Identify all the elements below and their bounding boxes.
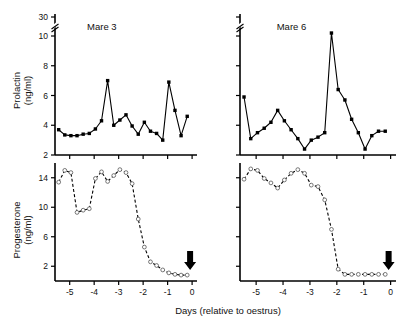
mare6-progesterone-data-point [242, 177, 246, 181]
mare3-progesterone-data-point [87, 207, 91, 211]
mare6-prolactin-data-point [249, 137, 252, 140]
mare6-progesterone-data-point [383, 272, 387, 276]
mare3-prolactin-data-point [155, 132, 158, 135]
mare6-progesterone-xtick-label-5: 0 [388, 287, 393, 297]
mare6-progesterone-data-point [303, 171, 307, 175]
mare3-prolactin-data-point [88, 132, 91, 135]
x-axis-title: Days (relative to oestrus) [175, 305, 281, 316]
mare3-prolactin-data-point [167, 80, 170, 83]
mare3-progesterone-data-point [136, 217, 140, 221]
mare3-progesterone-data-point [155, 264, 159, 268]
mare3-prolactin-data-point [63, 133, 66, 136]
mare6-progesterone-oestrus-arrow [383, 251, 395, 270]
mare3-progesterone-ytick-label-10: 10 [39, 202, 49, 212]
mare6-prolactin-data-point [363, 147, 366, 150]
mare3-progesterone-data-point [100, 170, 104, 174]
mare6-prolactin-data-point [316, 135, 319, 138]
mare3-prolactin-data-point [137, 132, 140, 135]
mare3-progesterone-data-point [179, 273, 183, 277]
mare6-prolactin-data-point [303, 147, 306, 150]
mare3-progesterone-data-point [149, 260, 153, 264]
mare3-progesterone-data-point [185, 273, 189, 277]
mare6-prolactin-data-point [263, 127, 266, 130]
mare3-prolactin-ytick-label-6: 6 [43, 91, 48, 101]
mare3-prolactin-data-point [75, 134, 78, 137]
mare3-progesterone-data-point [81, 208, 85, 212]
mare3-progesterone-xtick-label-0: -5 [66, 287, 74, 297]
progesterone-axis-units: (ng/ml) [22, 215, 33, 245]
mare3-prolactin-data-point [69, 134, 72, 137]
mare6-prolactin-data-point [283, 119, 286, 122]
mare6-prolactin-data-point [289, 128, 292, 131]
mare3-progesterone-data-point [106, 180, 110, 184]
mare6-progesterone-data-point [309, 183, 313, 187]
mare3-prolactin-data-point [186, 115, 189, 118]
mare6-progesterone-xtick-label-1: -4 [279, 287, 287, 297]
prolactin-axis-units: (ng/ml) [22, 76, 33, 106]
mare6-progesterone-data-point [350, 272, 354, 276]
mare6-progesterone-data-point [330, 227, 334, 231]
mare3-progesterone-data-point [118, 168, 122, 172]
mare6-progesterone-data-point [323, 198, 327, 202]
mare3-prolactin-ytick-label-8: 8 [43, 61, 48, 71]
mare3-progesterone-oestrus-arrow [184, 251, 196, 270]
mare3-progesterone-xtick-label-3: -2 [139, 287, 147, 297]
mare3-prolactin-data-point [130, 124, 133, 127]
prolactin-axis-title: Prolactin [11, 72, 22, 109]
mare6-progesterone-xtick-label-3: -2 [333, 287, 341, 297]
mare3-prolactin-ytick-label-10: 10 [39, 31, 49, 41]
mare3-progesterone-ytick-label-2: 2 [43, 261, 48, 271]
mare6-prolactin-data-point [296, 137, 299, 140]
mare3-progesterone-data-point [124, 171, 128, 175]
mare6-prolactin-panel-title: Mare 6 [277, 21, 307, 32]
mare3-progesterone-data-point [57, 180, 61, 184]
mare3-prolactin-ytick-label-30: 30 [39, 12, 49, 22]
mare6-prolactin-data-point [323, 131, 326, 134]
mare6-prolactin-data-point [330, 31, 333, 34]
mare6-prolactin-data-point [269, 121, 272, 124]
mare3-progesterone-xtick-label-2: -3 [115, 287, 123, 297]
mare6-progesterone-data-point [289, 171, 293, 175]
mare6-progesterone-data-point [249, 167, 253, 171]
mare6-prolactin-data-point [377, 130, 380, 133]
mare3-progesterone-data-point [167, 271, 171, 275]
mare6-progesterone-xtick-label-4: -1 [360, 287, 368, 297]
mare6-progesterone-data-point [269, 181, 273, 185]
mare3-progesterone-data-point [75, 211, 79, 215]
mare6-progesterone-data-point [363, 272, 367, 276]
mare6-progesterone-data-point [282, 178, 286, 182]
mare3-progesterone-ytick-label-6: 6 [43, 232, 48, 242]
mare3-progesterone-data-point [173, 272, 177, 276]
mare6-prolactin-data-point [256, 131, 259, 134]
mare3-prolactin-data-line [59, 81, 188, 141]
mare6-progesterone-data-point [256, 168, 260, 172]
mare3-progesterone-data-point [142, 245, 146, 249]
mare6-progesterone-xtick-label-0: -5 [252, 287, 260, 297]
mare6-progesterone-data-line [244, 169, 385, 274]
mare3-progesterone-data-point [112, 174, 116, 178]
mare3-prolactin-data-point [118, 118, 121, 121]
mare3-prolactin-data-point [81, 132, 84, 135]
mare3-progesterone-data-point [161, 268, 165, 272]
mare6-progesterone-data-point [356, 272, 360, 276]
mare3-prolactin-data-point [173, 109, 176, 112]
mare3-prolactin-panel-title: Mare 3 [87, 21, 117, 32]
mare3-progesterone-xtick-label-4: -1 [164, 287, 172, 297]
progesterone-axis-title: Progesterone [11, 201, 22, 258]
mare3-progesterone-data-point [94, 177, 98, 181]
mare3-prolactin-data-point [149, 130, 152, 133]
mare3-prolactin-ytick-label-4: 4 [43, 120, 48, 130]
mare6-progesterone-data-point [370, 272, 374, 276]
mare3-prolactin-ytick-label-2: 2 [43, 150, 48, 160]
mare6-progesterone-xtick-label-2: -3 [306, 287, 314, 297]
mare6-progesterone-data-point [276, 186, 280, 190]
multi-panel-chart: 24681030Mare 3Mare 6261014-5-4-3-2-10-5-… [0, 0, 404, 324]
mare3-prolactin-data-point [100, 119, 103, 122]
mare6-progesterone-data-point [296, 168, 300, 172]
mare6-prolactin-data-point [310, 138, 313, 141]
mare6-prolactin-data-point [343, 98, 346, 101]
mare6-prolactin-data-point [350, 118, 353, 121]
mare3-prolactin-data-point [94, 127, 97, 130]
mare6-progesterone-data-point [262, 177, 266, 181]
mare3-progesterone-data-point [130, 182, 134, 186]
